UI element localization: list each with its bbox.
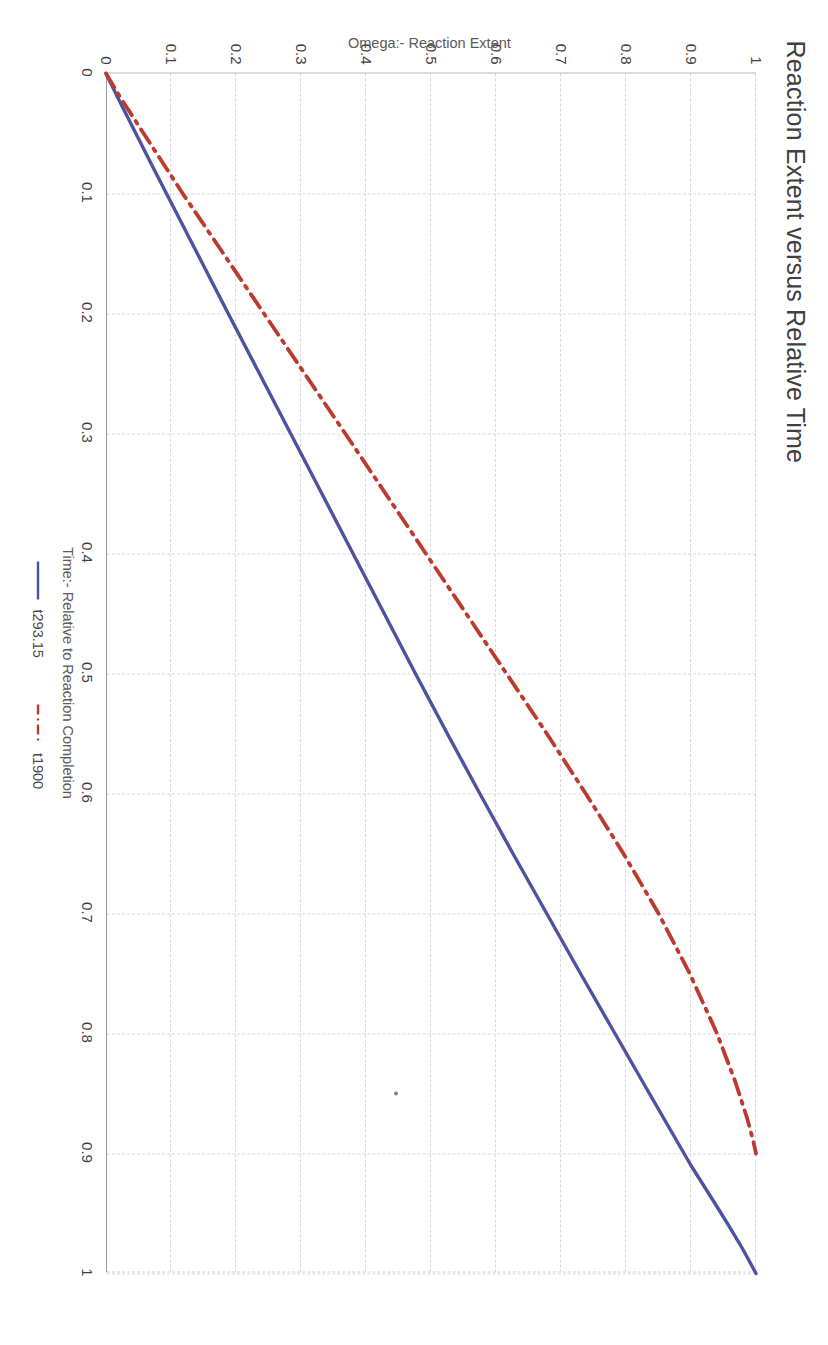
x-tick-label: 0.7 — [79, 902, 96, 923]
legend-line-solid-icon — [33, 560, 43, 600]
series-line-t293-15 — [106, 73, 756, 1273]
chart-figure: Reaction Extent versus Relative Time 00.… — [0, 0, 828, 1345]
x-tick-label: 0 — [79, 68, 96, 76]
x-tick-label: 0.2 — [79, 302, 96, 323]
series-line-t1900 — [106, 73, 756, 1153]
legend-label-t1900: t1900 — [30, 752, 46, 788]
y-tick-label: 0.8 — [618, 26, 635, 64]
plot-area — [106, 72, 756, 1272]
y-tick-label: 0.7 — [553, 26, 570, 64]
x-tick-label: 0.9 — [79, 1142, 96, 1163]
x-tick-label: 1 — [79, 1268, 96, 1276]
chart-legend: t293.15 t1900 — [30, 560, 46, 789]
y-axis-label: Omega:- Reaction Extent — [348, 34, 511, 50]
legend-label-t293-15: t293.15 — [30, 609, 46, 657]
legend-line-dashdot-icon — [33, 703, 43, 743]
y-tick-label: 1 — [748, 26, 765, 64]
y-tick-label: 0.3 — [293, 26, 310, 64]
legend-item-t293-15[interactable]: t293.15 — [30, 560, 46, 657]
x-tick-label: 0.4 — [79, 542, 96, 563]
x-tick-label: 0.6 — [79, 782, 96, 803]
x-axis-label: Time:- Relative to Reaction Completion — [60, 547, 76, 799]
chart-title: Reaction Extent versus Relative Time — [781, 40, 810, 463]
x-tick-label: 0.8 — [79, 1022, 96, 1043]
x-tick-label: 0.1 — [79, 182, 96, 203]
y-tick-label: 0.2 — [228, 26, 245, 64]
scan-speck — [394, 1091, 398, 1095]
series-curves — [106, 73, 756, 1273]
x-tick-label: 0.5 — [79, 662, 96, 683]
y-tick-label: 0 — [98, 26, 115, 64]
y-tick-label: 0.1 — [163, 26, 180, 64]
y-tick-label: 0.9 — [683, 26, 700, 64]
legend-item-t1900[interactable]: t1900 — [30, 703, 46, 788]
x-tick-label: 0.3 — [79, 422, 96, 443]
